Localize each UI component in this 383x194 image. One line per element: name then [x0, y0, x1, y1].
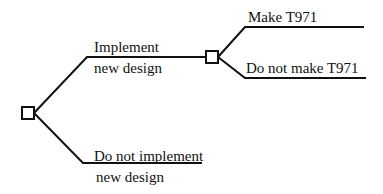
- branch-make-t971-line: [218, 27, 364, 57]
- label-do-not-implement-line1: Do not implement: [94, 148, 204, 164]
- second-decision-node: [206, 51, 218, 63]
- root-decision-node: [22, 107, 34, 119]
- label-implement-line1: Implement: [94, 39, 160, 55]
- label-do-not-implement-line2: new design: [96, 169, 164, 185]
- label-implement-line2: new design: [94, 60, 162, 76]
- decision-tree-diagram: Implement new design Make T971 Do not ma…: [0, 0, 383, 194]
- label-do-not-make-t971: Do not make T971: [246, 60, 359, 76]
- label-make-t971: Make T971: [248, 9, 317, 25]
